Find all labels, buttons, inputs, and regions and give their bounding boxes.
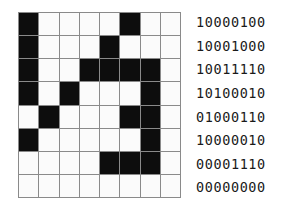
grid-cell [39, 59, 58, 81]
grid-cell [100, 129, 119, 151]
grid-cell [39, 129, 58, 151]
grid-cell [80, 13, 99, 35]
grid-cell [141, 59, 160, 81]
bitmap-grid [18, 12, 181, 198]
grid-cell [80, 59, 99, 81]
grid-cell [141, 175, 160, 197]
grid-cell [161, 13, 180, 35]
grid-cell [80, 106, 99, 128]
grid-cell [100, 82, 119, 104]
grid-cell [80, 152, 99, 174]
grid-cell [141, 152, 160, 174]
grid-cell [39, 36, 58, 58]
grid-cell [19, 13, 38, 35]
grid-cell [80, 129, 99, 151]
grid-cell [120, 13, 139, 35]
binary-row-label: 10011110 [196, 59, 300, 80]
grid-cell [120, 175, 139, 197]
bitmap-binary-figure: 1000010010001000100111101010001001000110… [0, 0, 307, 219]
grid-cell [19, 106, 38, 128]
grid-cell [39, 82, 58, 104]
binary-row-label: 10000100 [196, 12, 300, 33]
grid-cell [100, 175, 119, 197]
grid-cell [60, 59, 79, 81]
grid-cell [100, 106, 119, 128]
grid-cell [120, 59, 139, 81]
grid-cell [39, 106, 58, 128]
grid-cell [19, 82, 38, 104]
grid-cell [19, 175, 38, 197]
grid-cell [120, 152, 139, 174]
grid-cell [120, 129, 139, 151]
binary-row-label: 10001000 [196, 36, 300, 57]
grid-cell [39, 152, 58, 174]
grid-cell [161, 175, 180, 197]
grid-cell [19, 152, 38, 174]
binary-label-column: 1000010010001000100111101010001001000110… [196, 12, 300, 198]
grid-cell [141, 36, 160, 58]
grid-cell [60, 82, 79, 104]
grid-cell [19, 59, 38, 81]
binary-row-label: 00001110 [196, 154, 300, 175]
grid-cell [120, 106, 139, 128]
grid-cell [161, 82, 180, 104]
grid-cell [161, 152, 180, 174]
grid-cell [141, 106, 160, 128]
binary-row-label: 00000000 [196, 177, 300, 198]
grid-cell [80, 82, 99, 104]
grid-cell [141, 129, 160, 151]
grid-cell [39, 13, 58, 35]
grid-cell [161, 129, 180, 151]
grid-cell [161, 106, 180, 128]
grid-cell [60, 129, 79, 151]
grid-cell [161, 59, 180, 81]
grid-cell [19, 36, 38, 58]
grid-cell [100, 59, 119, 81]
grid-cell [60, 106, 79, 128]
grid-cell [100, 36, 119, 58]
grid-cell [100, 13, 119, 35]
binary-row-label: 10100010 [196, 83, 300, 104]
grid-cell [100, 152, 119, 174]
grid-cell [161, 36, 180, 58]
grid-cell [60, 152, 79, 174]
grid-cell [141, 82, 160, 104]
grid-cell [60, 175, 79, 197]
grid-cell [19, 129, 38, 151]
grid-cell [60, 36, 79, 58]
grid-cell [120, 82, 139, 104]
grid-cell [120, 36, 139, 58]
grid-cell [60, 13, 79, 35]
binary-row-label: 10000010 [196, 130, 300, 151]
grid-cell [80, 175, 99, 197]
grid-cell [80, 36, 99, 58]
binary-row-label: 01000110 [196, 107, 300, 128]
grid-cell [141, 13, 160, 35]
grid-cell [39, 175, 58, 197]
